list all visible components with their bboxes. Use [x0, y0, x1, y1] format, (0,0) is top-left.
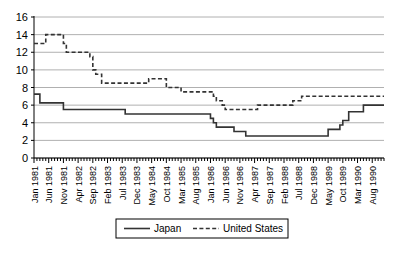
- x-tick-label: Nov 1986: [235, 166, 245, 205]
- x-tick-label: Mar 1990: [353, 166, 363, 204]
- chart-legend: JapanUnited States: [116, 219, 288, 238]
- x-tick-label: Dec 1983: [132, 166, 142, 205]
- y-tick-label: 4: [22, 117, 28, 129]
- y-tick-label: 12: [16, 46, 28, 58]
- y-tick-label: 2: [22, 134, 28, 146]
- x-tick-label: Jul 1988: [294, 166, 304, 200]
- x-tick-label: Jan 1981: [30, 166, 40, 203]
- legend-label-japan: Japan: [154, 223, 181, 234]
- x-tick-label: May 1989: [324, 166, 334, 206]
- x-tick-label: Jun 1986: [221, 166, 231, 203]
- y-tick-label: 10: [16, 64, 28, 76]
- y-tick-label: 6: [22, 99, 28, 111]
- x-tick-label: Sep 1987: [265, 166, 275, 205]
- x-tick-label: Feb 1988: [280, 166, 290, 204]
- x-tick-label: Sep 1982: [88, 166, 98, 205]
- x-tick-label: May 1984: [147, 166, 157, 206]
- x-tick-label: Jan 1986: [206, 166, 216, 203]
- x-tick-label: Jun 1981: [44, 166, 54, 203]
- x-tick-label: Mar 1985: [177, 166, 187, 204]
- x-tick-label: Jul 1983: [118, 166, 128, 200]
- x-tick-label: Apr 1987: [250, 166, 260, 203]
- chart-container: 0246810121416 Jan 1981Jun 1981Nov 1981Ap…: [0, 0, 396, 255]
- x-tick-label: Feb 1983: [103, 166, 113, 204]
- y-tick-label: 0: [22, 152, 28, 164]
- chart-background: [0, 0, 396, 255]
- x-tick-label: Nov 1981: [59, 166, 69, 205]
- x-tick-label: Aug 1990: [368, 166, 378, 205]
- y-tick-label: 16: [16, 11, 28, 23]
- y-tick-label: 14: [16, 29, 28, 41]
- x-tick-label: Apr 1982: [74, 166, 84, 203]
- x-tick-label: Dec 1988: [309, 166, 319, 205]
- x-tick-label: Aug 1985: [191, 166, 201, 205]
- legend-label-united-states: United States: [223, 223, 283, 234]
- y-tick-label: 8: [22, 82, 28, 94]
- line-chart: 0246810121416 Jan 1981Jun 1981Nov 1981Ap…: [0, 0, 396, 255]
- x-tick-label: Oct 1984: [162, 166, 172, 203]
- x-tick-label: Oct 1989: [338, 166, 348, 203]
